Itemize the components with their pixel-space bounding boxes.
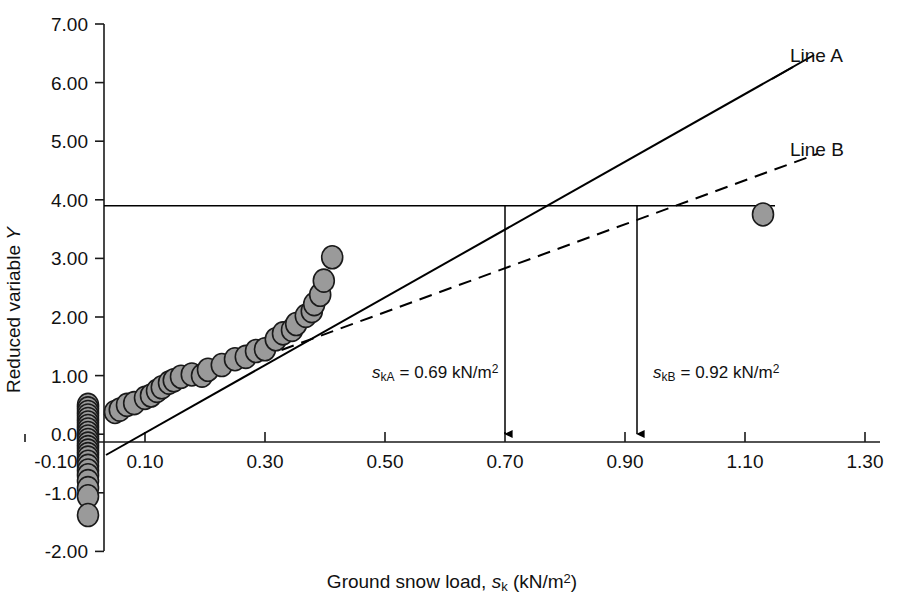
line-b-label: Line B [790,139,844,160]
x-tick-label-050: 0.50 [367,451,404,472]
line-a-label: Line A [790,45,843,66]
annotation-ska-sub: kA [381,370,395,384]
x-axis-title-tail: (kN/m [508,571,564,592]
data-point [313,269,334,292]
annotation-ska-rest: = 0.69 kN/m [400,363,492,382]
x-axis-title-symbol: s [492,571,502,592]
y-tick-label-5: 5.00 [51,131,88,152]
y-axis-title-main: Reduced variable [3,240,24,393]
x-tick-label-130: 1.30 [847,451,884,472]
plot-background [0,0,898,601]
x-axis-title-sup: 2 [564,571,571,586]
x-tick-label-030: 0.30 [247,451,284,472]
snow-load-gumbel-plot: 7.00 6.00 5.00 4.00 3.00 2.00 1.00 0.00 … [0,0,898,601]
y-tick-label-6: 6.00 [51,73,88,94]
x-tick-label-110: 1.10 [727,451,764,472]
x-axis-title-close: ) [571,571,577,592]
y-tick-label-neg2: -2.00 [45,541,88,562]
y-tick-label-2: 2.00 [51,307,88,328]
data-point [322,246,343,269]
x-tick-label-neg010: -0.10 [34,451,77,472]
x-axis-title-main: Ground snow load, [327,571,492,592]
x-tick-label-070: 0.70 [487,451,524,472]
y-tick-label-3: 3.00 [51,248,88,269]
x-tick-label-010: 0.10 [127,451,164,472]
data-point [78,504,99,527]
y-axis-title: Reduced variable Y [3,226,24,393]
x-tick-label-090: 0.90 [607,451,644,472]
annotation-skb-sub: kB [662,370,676,384]
x-axis-title: Ground snow load, sk (kN/m2) [327,571,577,594]
y-tick-label-7: 7.00 [51,14,88,35]
chart-figure: 7.00 6.00 5.00 4.00 3.00 2.00 1.00 0.00 … [0,0,898,601]
annotation-skb-rest: = 0.92 kN/m [681,363,773,382]
annotation-ska-sup: 2 [492,362,499,376]
y-axis-title-italic: Y [3,226,24,240]
annotation-skb-sup: 2 [773,362,780,376]
y-tick-label-4: 4.00 [51,190,88,211]
data-point [753,203,774,226]
y-tick-label-1: 1.00 [51,366,88,387]
